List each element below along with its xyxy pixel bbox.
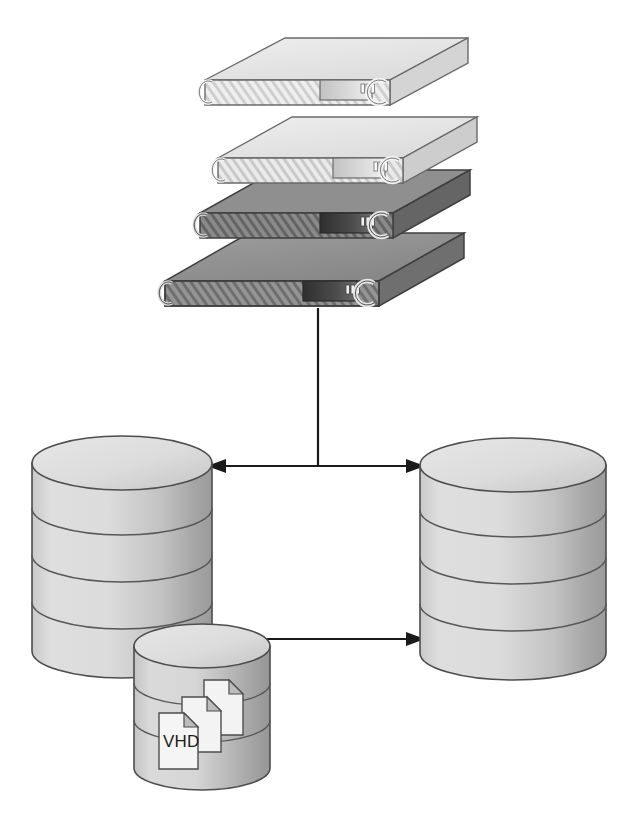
vhd-storage-cylinder[interactable]: VHD	[134, 624, 270, 790]
vhd-cylinder-top	[134, 624, 270, 668]
architecture-diagram: VHD	[0, 0, 619, 825]
server-4-led-1	[346, 285, 350, 294]
diagram-canvas: VHD	[0, 0, 619, 825]
right-storage-cylinder[interactable]	[420, 438, 606, 680]
server-2-led-1	[374, 162, 378, 171]
rack-server-1[interactable]	[199, 38, 468, 105]
connector-group	[207, 308, 425, 646]
server-3-led-1	[361, 217, 365, 226]
rack-server-4[interactable]	[159, 233, 464, 306]
left-cylinder-top	[32, 436, 212, 490]
server-1-led-1	[361, 84, 365, 93]
right-cylinder-body	[420, 465, 606, 680]
right-cylinder-top	[420, 438, 606, 492]
vhd-label: VHD	[163, 732, 200, 751]
